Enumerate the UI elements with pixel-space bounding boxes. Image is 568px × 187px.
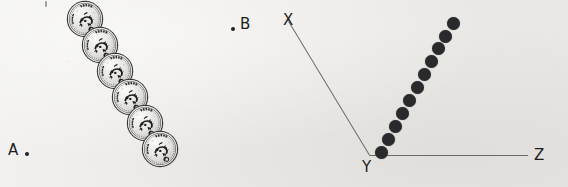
- ray-yx: [288, 21, 370, 156]
- angle-xyz-figure: XZY: [0, 0, 568, 187]
- chain-dot-6: [411, 81, 424, 94]
- chain-dot-10: [439, 30, 452, 43]
- chain-dot-1: [375, 146, 388, 159]
- chain-dot-11: [447, 17, 460, 30]
- chain-dot-9: [432, 42, 445, 55]
- chain-dot-3: [389, 120, 402, 133]
- point-label-y: Y: [362, 160, 371, 175]
- point-label-x: X: [283, 13, 293, 28]
- ray-yz: [370, 155, 528, 156]
- chain-dot-4: [396, 107, 409, 120]
- chain-dot-2: [382, 133, 395, 146]
- chain-dot-8: [425, 55, 438, 68]
- chain-dot-5: [403, 94, 416, 107]
- chain-dot-7: [418, 68, 431, 81]
- point-label-z: Z: [534, 148, 544, 163]
